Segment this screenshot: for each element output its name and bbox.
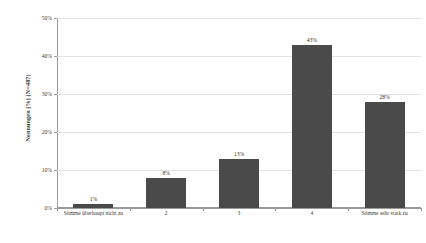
plot-area: 0%10%20%30%40%50% 1%8%13%43%28% xyxy=(57,18,421,208)
bar-value-label: 28% xyxy=(379,94,389,100)
x-axis-label: Stimme überhaupt nicht zu xyxy=(57,210,130,218)
bar xyxy=(365,102,405,208)
x-axis-labels: Stimme überhaupt nicht zu234Stimme sehr … xyxy=(57,210,421,218)
y-tick-label: 10% xyxy=(42,167,52,173)
bar-slot: 43% xyxy=(275,18,348,208)
gridline xyxy=(57,208,421,209)
y-tick-label: 0% xyxy=(45,205,52,211)
y-tick-label: 50% xyxy=(42,15,52,21)
x-axis-label: 4 xyxy=(275,210,348,218)
bar-slot: 1% xyxy=(57,18,130,208)
y-tick-label: 30% xyxy=(42,91,52,97)
y-tick-label: 40% xyxy=(42,53,52,59)
bar xyxy=(219,159,259,208)
bar-value-label: 1% xyxy=(90,196,97,202)
bar-value-label: 43% xyxy=(307,37,317,43)
bar-slot: 28% xyxy=(348,18,421,208)
bar-series: 1%8%13%43%28% xyxy=(57,18,421,208)
bar-value-label: 8% xyxy=(162,170,169,176)
bar-slot: 13% xyxy=(203,18,276,208)
bar-chart-figure: Nennungen [%] (N=487) 0%10%20%30%40%50% … xyxy=(0,0,426,243)
bar-slot: 8% xyxy=(130,18,203,208)
bar xyxy=(73,204,113,208)
bar xyxy=(292,45,332,208)
y-axis-title-text: Nennungen [%] (N=487) xyxy=(24,74,32,141)
x-axis-label: Stimme sehr stark zu xyxy=(348,210,421,218)
bar-value-label: 13% xyxy=(234,151,244,157)
y-tick-label: 20% xyxy=(42,129,52,135)
x-axis-label: 3 xyxy=(203,210,276,218)
x-axis-label: 2 xyxy=(130,210,203,218)
bar xyxy=(146,178,186,208)
y-axis-title: Nennungen [%] (N=487) xyxy=(18,0,38,215)
x-tick-mark xyxy=(421,208,422,211)
